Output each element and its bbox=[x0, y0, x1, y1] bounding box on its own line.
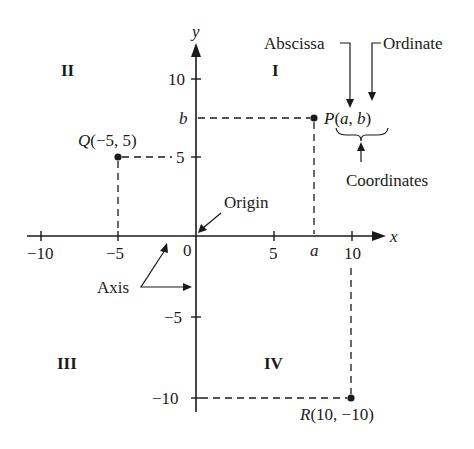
axis-arrowhead-icon bbox=[183, 283, 192, 291]
point-Q bbox=[114, 153, 172, 231]
quadrant-III-label: III bbox=[57, 354, 77, 373]
quadrant-II-label: II bbox=[61, 61, 75, 80]
point-R-dot bbox=[347, 394, 354, 401]
point-P-dot bbox=[310, 114, 317, 121]
x-tick-label: −5 bbox=[106, 244, 124, 263]
origin-label: Origin bbox=[224, 193, 269, 212]
y-tick-b-label: b bbox=[179, 109, 188, 128]
x-axis bbox=[27, 231, 386, 241]
origin-zero-label: 0 bbox=[183, 241, 192, 260]
x-tick-label: −10 bbox=[27, 244, 54, 263]
coordinate-plane-diagram: x y 0 −10 −5 5 10 a 10 5 −5 −10 b II I I… bbox=[0, 0, 474, 449]
point-R bbox=[201, 268, 355, 402]
point-Q-label: Q(−5, 5) bbox=[78, 131, 137, 150]
x-tick-label: 10 bbox=[344, 244, 361, 263]
x-tick-label: 5 bbox=[269, 244, 278, 263]
y-tick-label: 5 bbox=[176, 148, 185, 167]
y-tick-label: −10 bbox=[152, 389, 179, 408]
abscissa-arrowhead-icon bbox=[346, 99, 354, 108]
axis-pointers bbox=[141, 250, 184, 287]
axis-arrowhead-icon bbox=[160, 243, 168, 253]
coordinates-arrowhead-icon bbox=[357, 142, 365, 151]
origin-pointer bbox=[203, 213, 221, 228]
y-tick-label: −5 bbox=[164, 308, 182, 327]
point-R-label: R(10, −10) bbox=[299, 405, 374, 424]
y-tick-label: 10 bbox=[168, 70, 185, 89]
axis-label: Axis bbox=[97, 278, 129, 297]
x-axis-arrowhead-icon bbox=[372, 231, 386, 241]
x-axis-label: x bbox=[389, 227, 398, 246]
y-axis-label: y bbox=[190, 22, 200, 41]
y-axis-arrowhead-icon bbox=[191, 43, 201, 57]
abscissa-label: Abscissa bbox=[264, 34, 325, 53]
coordinates-brace-icon bbox=[336, 128, 388, 141]
point-P bbox=[198, 114, 318, 234]
ordinate-pointer bbox=[372, 43, 381, 93]
diagram-canvas: x y 0 −10 −5 5 10 a 10 5 −5 −10 b II I I… bbox=[0, 0, 474, 449]
ordinate-arrowhead-icon bbox=[368, 92, 376, 101]
x-tick-a-label: a bbox=[310, 241, 319, 260]
quadrant-I-label: I bbox=[272, 61, 279, 80]
ordinate-label: Ordinate bbox=[383, 34, 442, 53]
point-Q-dot bbox=[114, 153, 121, 160]
y-axis bbox=[191, 43, 201, 412]
coordinates-label: Coordinates bbox=[346, 171, 428, 190]
quadrant-IV-label: IV bbox=[264, 354, 284, 373]
abscissa-pointer bbox=[340, 43, 350, 100]
point-P-label: P(a, b) bbox=[323, 109, 371, 128]
